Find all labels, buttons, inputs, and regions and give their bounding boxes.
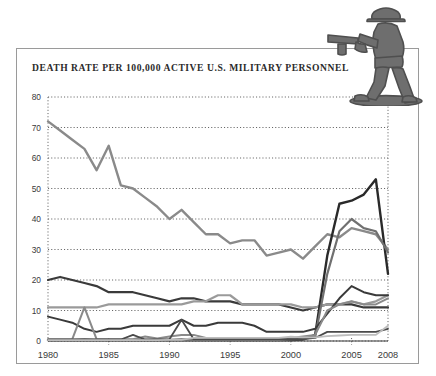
svg-text:2000: 2000 — [281, 350, 301, 360]
svg-text:1990: 1990 — [159, 350, 179, 360]
chart-figure: DEATH RATE PER 100,000 ACTIVE U.S. MILIT… — [0, 0, 436, 376]
svg-text:30: 30 — [32, 245, 42, 255]
svg-text:50: 50 — [32, 184, 42, 194]
svg-text:60: 60 — [32, 153, 42, 163]
y-axis-labels: 01020304050607080 — [32, 92, 42, 346]
x-axis-labels: 1980198519901995200020052008 — [38, 350, 398, 360]
svg-text:0: 0 — [36, 336, 41, 346]
svg-text:2008: 2008 — [378, 350, 398, 360]
svg-text:1995: 1995 — [220, 350, 240, 360]
svg-text:20: 20 — [32, 275, 42, 285]
svg-text:70: 70 — [32, 123, 42, 133]
data-series-lines — [48, 121, 388, 340]
svg-text:10: 10 — [32, 306, 42, 316]
svg-text:1980: 1980 — [38, 350, 58, 360]
svg-text:1985: 1985 — [98, 350, 118, 360]
svg-text:40: 40 — [32, 214, 42, 224]
svg-text:2005: 2005 — [341, 350, 361, 360]
toy-soldier-icon — [318, 2, 430, 106]
svg-text:80: 80 — [32, 92, 42, 102]
